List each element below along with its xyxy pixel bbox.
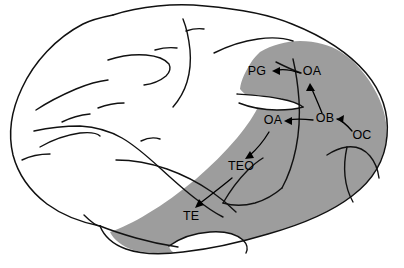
dorsal-sulcus-fragment	[98, 103, 124, 108]
brain-pathway-figure: Lateral view of macaque brain showing vi…	[0, 0, 404, 268]
label-pg: PG	[248, 64, 266, 78]
frontal-sulcus-fragment	[62, 114, 90, 122]
brain-outline-frontal	[11, 15, 113, 226]
arcuate-sulcus	[108, 55, 170, 85]
label-te: TE	[183, 209, 199, 223]
sulcus-fragment-superior	[155, 48, 177, 50]
inferior-frontal-sulcus	[40, 133, 100, 147]
principal-sulcus	[36, 80, 108, 110]
label-oa-dorsal: OA	[303, 64, 322, 78]
label-oc: OC	[353, 128, 372, 142]
frontal-pole-sulcus	[22, 154, 50, 160]
mid-sulcus-dash	[141, 138, 160, 141]
label-teo: TEO	[228, 159, 254, 173]
label-oa-ventral: OA	[264, 113, 283, 127]
top-dash-fragment	[186, 29, 204, 31]
brain-diagram-svg: Lateral view of macaque brain showing vi…	[0, 0, 404, 268]
label-ob: OB	[316, 111, 334, 125]
central-sulcus	[173, 19, 190, 107]
